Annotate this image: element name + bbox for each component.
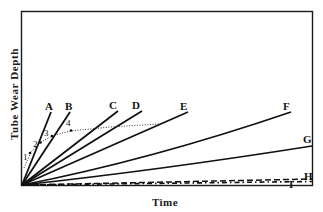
point-marker-2 bbox=[39, 141, 42, 144]
y-axis-label: Tube Wear Depth bbox=[8, 34, 20, 154]
curve-label-A: A bbox=[45, 101, 53, 112]
point-label-2: 2 bbox=[33, 140, 38, 149]
point-marker-3 bbox=[51, 135, 54, 138]
curve-label-F: F bbox=[283, 101, 290, 112]
point-marker-4 bbox=[70, 129, 73, 132]
curve-D bbox=[22, 111, 142, 185]
x-axis-label: Time bbox=[120, 196, 210, 208]
point-label-1: 1 bbox=[23, 153, 28, 162]
curve-label-D: D bbox=[132, 100, 140, 111]
point-label-3: 3 bbox=[44, 129, 49, 138]
curve-label-H: H bbox=[304, 171, 313, 182]
curve-label-E: E bbox=[180, 101, 187, 112]
point-marker-1 bbox=[29, 152, 32, 155]
chart-figure: Tube Wear Depth Time A B C D E F G H I 1… bbox=[0, 0, 323, 212]
point-label-4: 4 bbox=[66, 119, 71, 128]
curve-label-I: I bbox=[289, 179, 293, 190]
curve-label-G: G bbox=[303, 134, 312, 145]
curve-label-B: B bbox=[65, 101, 72, 112]
curve-label-C: C bbox=[109, 100, 117, 111]
